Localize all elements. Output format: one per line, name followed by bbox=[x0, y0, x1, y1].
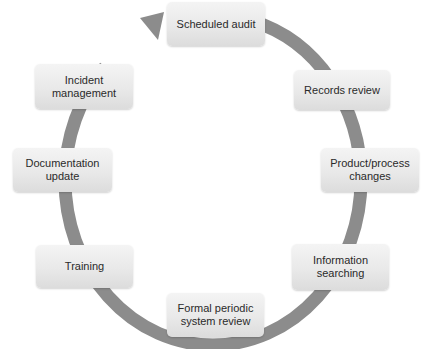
step-scheduled-audit: Scheduled audit bbox=[167, 2, 265, 46]
step-label: Incident management bbox=[39, 74, 129, 100]
step-formal-periodic-system-review: Formal periodic system review bbox=[167, 293, 264, 337]
step-label: Records review bbox=[304, 84, 380, 97]
step-incident-management: Incident management bbox=[35, 64, 133, 109]
step-label: Information searching bbox=[296, 254, 385, 280]
step-records-review: Records review bbox=[294, 70, 390, 110]
step-label: Product/process changes bbox=[325, 157, 415, 183]
arrowhead-icon bbox=[140, 12, 164, 40]
step-label: Documentation update bbox=[17, 157, 108, 183]
step-information-searching: Information searching bbox=[292, 244, 389, 290]
step-training: Training bbox=[36, 245, 133, 288]
step-product-process-changes: Product/process changes bbox=[321, 148, 419, 192]
step-label: Scheduled audit bbox=[177, 18, 256, 31]
step-label: Formal periodic system review bbox=[171, 302, 260, 328]
step-label: Training bbox=[65, 260, 104, 273]
step-documentation-update: Documentation update bbox=[13, 148, 112, 192]
